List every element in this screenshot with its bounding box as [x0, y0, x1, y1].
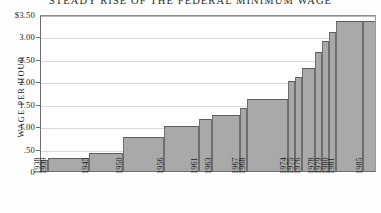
x-axis: 1938193919451950195619611963196719681974…: [0, 0, 381, 213]
x-tick-label-1950: 1950: [116, 157, 124, 174]
x-tick-label-1963: 1963: [205, 157, 213, 174]
minimum-wage-bar-chart: STEADY RISE OF THE FEDERAL MINIMUM WAGE …: [0, 0, 381, 213]
x-tick-label-1985: 1985: [356, 157, 364, 174]
x-tick-label-1945: 1945: [81, 157, 89, 174]
x-tick-label-1976: 1976: [294, 157, 302, 174]
x-tick-label-1956: 1956: [157, 157, 165, 174]
x-tick-label-1961: 1961: [191, 157, 199, 174]
x-tick-label-1968: 1968: [239, 157, 247, 174]
x-tick-label-1939: 1939: [40, 157, 48, 174]
x-tick-label-1981: 1981: [328, 157, 336, 174]
